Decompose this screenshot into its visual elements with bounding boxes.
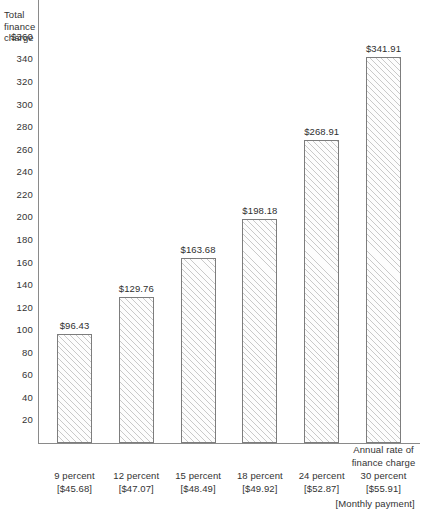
x-axis-category-label: 30 percent[$55.91] <box>344 469 424 495</box>
bar <box>119 297 154 443</box>
x-axis-category-payment: [$55.91] <box>344 482 424 495</box>
y-axis-tick-label: 60 <box>0 370 33 380</box>
y-axis-tick-label: 80 <box>0 348 33 358</box>
bar <box>181 258 216 443</box>
y-axis-tick-label: 240 <box>0 167 33 177</box>
y-axis-tick-label: 280 <box>0 122 33 132</box>
bar-value-label: $341.91 <box>348 43 420 54</box>
bar-value-label: $96.43 <box>39 320 111 331</box>
bar-value-label: $198.18 <box>224 205 296 216</box>
y-axis-tick-label: 220 <box>0 190 33 200</box>
y-axis-tick-label: $360 <box>0 32 33 42</box>
y-axis-tick-label: 340 <box>0 54 33 64</box>
bar <box>304 140 339 443</box>
y-axis-tick-label: 200 <box>0 212 33 222</box>
y-axis-tick-label: 180 <box>0 235 33 245</box>
x-axis-category-rate: 30 percent <box>344 469 424 482</box>
bar-value-label: $163.68 <box>162 244 234 255</box>
bar <box>242 219 277 443</box>
bar-value-label: $268.91 <box>286 126 358 137</box>
y-axis-tick-label: 100 <box>0 325 33 335</box>
y-axis-tick-label: 120 <box>0 303 33 313</box>
bar-value-label: $129.76 <box>100 283 172 294</box>
x-axis-title: Annual rate offinance charge <box>339 443 429 469</box>
y-axis-tick-label: 320 <box>0 77 33 87</box>
bar <box>366 57 401 443</box>
y-axis-title-line-2: finance <box>4 21 35 32</box>
y-axis-tick-label: 260 <box>0 145 33 155</box>
y-axis-tick-label: 160 <box>0 258 33 268</box>
y-axis-title-line-1: Total <box>4 9 25 20</box>
plot-area <box>38 0 420 444</box>
bar <box>57 334 92 443</box>
bar-chart: Total finance charge 2040608010012014016… <box>0 0 429 514</box>
x-axis-title-line-1: Annual rate of <box>339 443 429 456</box>
y-axis-tick-label: 40 <box>0 393 33 403</box>
y-axis-tick-label: 20 <box>0 415 33 425</box>
x-axis-title-line-2: finance charge <box>339 456 429 469</box>
y-axis-tick-label: 300 <box>0 100 33 110</box>
x-axis-subtitle: [Monthly payment] <box>336 497 415 510</box>
y-axis-tick-label: 140 <box>0 280 33 290</box>
